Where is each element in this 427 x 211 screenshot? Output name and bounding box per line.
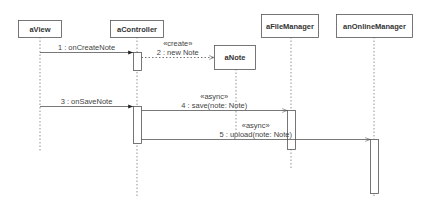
participant-label: aNote xyxy=(225,53,246,62)
activation-bar-anOnlineManager xyxy=(371,140,379,194)
message-label: 1 : onCreateNote xyxy=(58,43,115,52)
participant-label: aController xyxy=(117,25,157,34)
activation-bar-aController xyxy=(134,107,142,144)
participant-aView[interactable]: aView xyxy=(19,21,62,38)
message-2[interactable]: «create»2 : new Note xyxy=(142,39,215,58)
message-3[interactable]: 3 : onSaveNote xyxy=(40,97,133,107)
participant-aController[interactable]: aController xyxy=(111,21,164,38)
message-label: 4 : save(note: Note) xyxy=(181,101,247,110)
message-1[interactable]: 1 : onCreateNote xyxy=(40,43,133,53)
message-label: 5 : upload(note: Note) xyxy=(219,130,292,139)
participant-aFileManager[interactable]: aFileManager xyxy=(262,15,319,38)
participant-label: aFileManager xyxy=(266,22,314,31)
participant-label: anOnlineManager xyxy=(343,22,406,31)
message-label: 2 : new Note xyxy=(157,48,199,57)
participant-label: aView xyxy=(29,25,50,34)
activation-bar-aController xyxy=(134,53,142,71)
message-label: 3 : onSaveNote xyxy=(61,97,113,106)
participant-aNote[interactable]: aNote xyxy=(215,46,256,70)
message-4[interactable]: «async»4 : save(note: Note) xyxy=(142,92,288,111)
participant-anOnlineManager[interactable]: anOnlineManager xyxy=(337,15,413,38)
sequence-diagram: aViewaControlleraNoteaFileManageranOnlin… xyxy=(0,0,427,211)
message-5[interactable]: «async»5 : upload(note: Note) xyxy=(142,121,371,140)
